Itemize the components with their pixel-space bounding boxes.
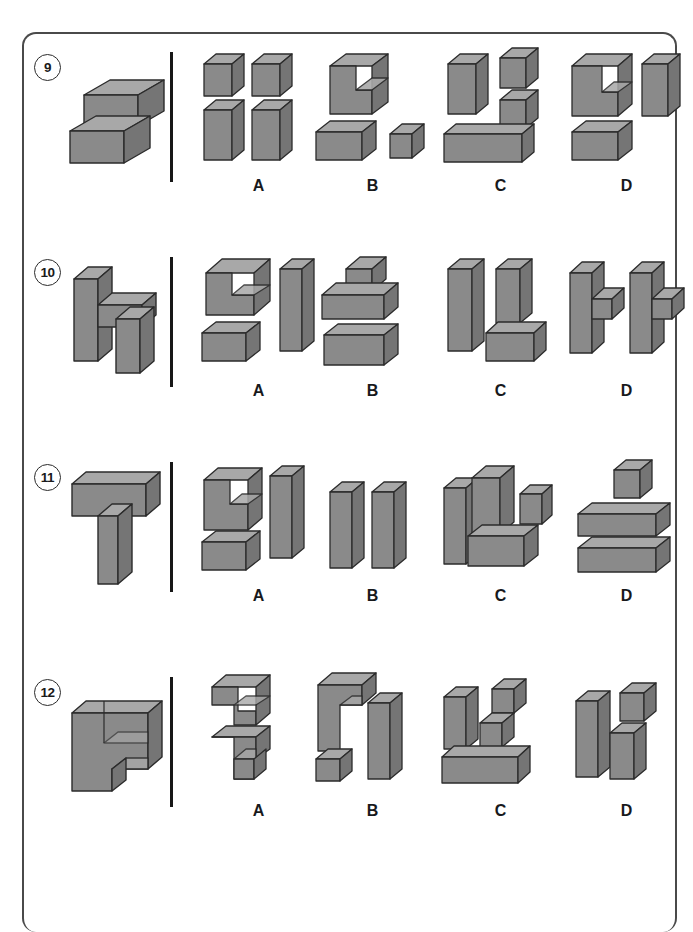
option-cell-9-D[interactable]: D xyxy=(564,42,689,217)
option-label: B xyxy=(310,382,435,400)
question-number-badge: 12 xyxy=(34,679,61,706)
option-label: C xyxy=(438,382,563,400)
option-figure xyxy=(310,667,435,802)
option-cell-9-A[interactable]: A xyxy=(196,42,321,217)
option-label: B xyxy=(310,587,435,605)
option-cell-12-C[interactable]: C xyxy=(438,667,563,842)
stimulus-figure-10 xyxy=(64,253,168,393)
option-figure xyxy=(438,667,563,802)
stimulus-divider xyxy=(170,462,173,592)
option-cell-10-D[interactable]: D xyxy=(564,247,689,422)
option-figure xyxy=(196,247,321,382)
option-label: D xyxy=(564,587,689,605)
question-row-10: 10 xyxy=(24,239,679,439)
question-row-12: 12 xyxy=(24,659,679,874)
option-figure xyxy=(564,452,689,587)
option-figure xyxy=(310,247,435,382)
stimulus-figure-12 xyxy=(64,673,168,813)
option-cell-9-B[interactable]: B xyxy=(310,42,435,217)
worksheet-frame: 9 xyxy=(22,32,677,932)
option-cell-12-D[interactable]: D xyxy=(564,667,689,842)
option-label: A xyxy=(196,177,321,195)
question-number-badge: 11 xyxy=(34,464,61,491)
option-figure xyxy=(310,452,435,587)
option-figure xyxy=(310,42,435,177)
option-label: D xyxy=(564,177,689,195)
stimulus-figure-9 xyxy=(64,48,168,188)
question-row-9: 9 xyxy=(24,34,679,234)
option-cell-12-B[interactable]: B xyxy=(310,667,435,842)
option-cell-12-A[interactable]: A xyxy=(196,667,321,842)
option-label: A xyxy=(196,802,321,820)
option-label: D xyxy=(564,802,689,820)
question-row-11: 11 xyxy=(24,444,679,659)
question-number-badge: 9 xyxy=(34,54,61,81)
option-label: B xyxy=(310,802,435,820)
option-label: B xyxy=(310,177,435,195)
option-cell-9-C[interactable]: C xyxy=(438,42,563,217)
option-figure xyxy=(564,247,689,382)
option-cell-10-A[interactable]: A xyxy=(196,247,321,422)
stimulus-divider xyxy=(170,52,173,182)
option-figure xyxy=(438,452,563,587)
option-label: A xyxy=(196,382,321,400)
question-number-badge: 10 xyxy=(34,259,61,286)
option-label: C xyxy=(438,587,563,605)
option-cell-11-A[interactable]: A xyxy=(196,452,321,627)
option-figure xyxy=(196,452,321,587)
option-label: A xyxy=(196,587,321,605)
option-label: C xyxy=(438,177,563,195)
stimulus-divider xyxy=(170,677,173,807)
option-figure xyxy=(564,42,689,177)
option-cell-11-B[interactable]: B xyxy=(310,452,435,627)
option-cell-10-B[interactable]: B xyxy=(310,247,435,422)
option-figure xyxy=(196,667,321,802)
option-figure xyxy=(196,42,321,177)
option-label: D xyxy=(564,382,689,400)
option-label: C xyxy=(438,802,563,820)
option-figure xyxy=(564,667,689,802)
option-figure xyxy=(438,42,563,177)
option-figure xyxy=(438,247,563,382)
option-cell-10-C[interactable]: C xyxy=(438,247,563,422)
option-cell-11-D[interactable]: D xyxy=(564,452,689,627)
option-cell-11-C[interactable]: C xyxy=(438,452,563,627)
stimulus-figure-11 xyxy=(64,458,168,598)
stimulus-divider xyxy=(170,257,173,387)
